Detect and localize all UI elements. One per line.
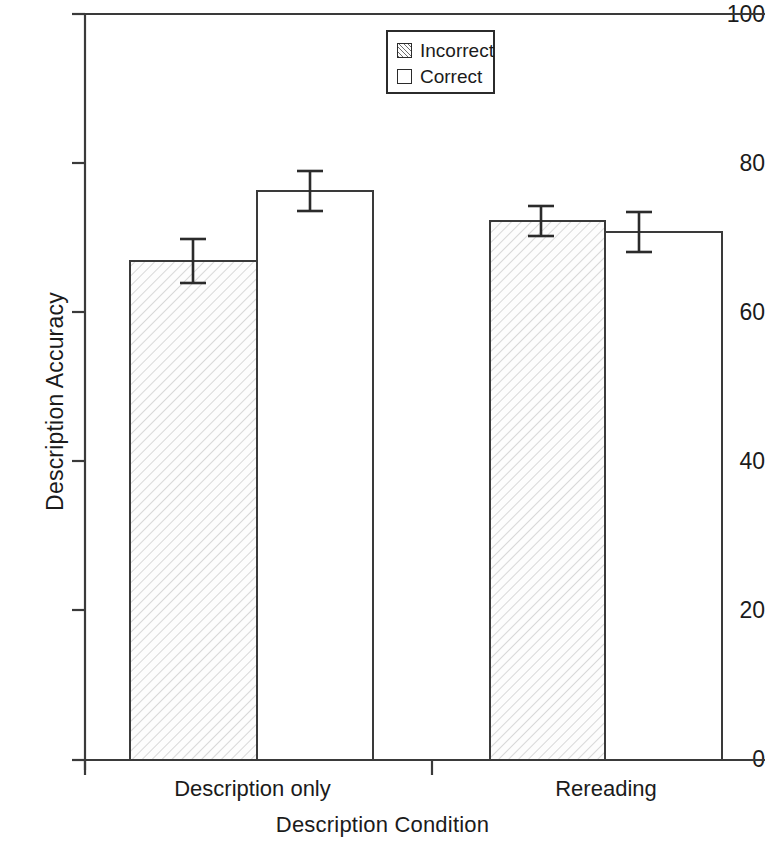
bar-correct-description-only [257, 191, 373, 760]
bar-incorrect-rereading [490, 221, 605, 760]
legend: Incorrect Correct [386, 30, 495, 94]
empty-square-icon [397, 69, 412, 84]
legend-label-correct: Correct [420, 67, 482, 86]
plot-area [0, 0, 765, 845]
legend-label-incorrect: Incorrect [420, 41, 494, 60]
bar-chart-figure: Description Accuracy 100 80 60 40 20 0 [0, 0, 765, 845]
y-tick-marks [72, 14, 85, 760]
x-tick-marks [85, 760, 432, 775]
x-group-label-rereading: Rereading [490, 776, 722, 802]
legend-item-correct: Correct [397, 63, 493, 89]
x-group-label-description-only: Description only [130, 776, 375, 802]
x-axis-title: Description Condition [0, 812, 765, 838]
bar-correct-rereading [605, 232, 722, 760]
bar-incorrect-description-only [130, 261, 257, 760]
hatched-square-icon [397, 43, 412, 58]
legend-item-incorrect: Incorrect [397, 37, 493, 63]
